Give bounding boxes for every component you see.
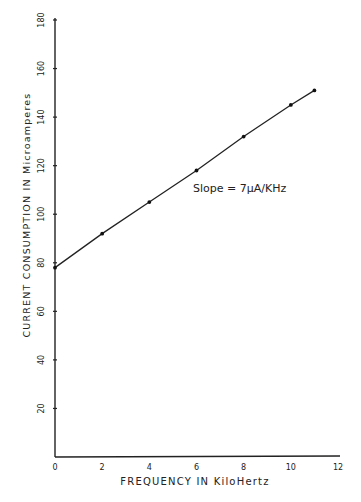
x-tick-label: 12: [333, 463, 343, 472]
line-chart: 20406080100120140160180 024681012 FREQUE…: [0, 0, 361, 502]
data-point: [313, 89, 317, 93]
x-tick-label: 0: [52, 463, 57, 472]
x-tick-label: 4: [147, 463, 152, 472]
data-point: [195, 169, 199, 173]
y-tick-label: 60: [37, 306, 46, 316]
x-axis-label: FREQUENCY IN KiloHertz: [120, 476, 269, 487]
data-point: [147, 200, 151, 204]
y-tick-label: 140: [37, 109, 46, 124]
y-tick-label: 120: [37, 158, 46, 173]
y-tick-label: 100: [37, 207, 46, 222]
data-point: [53, 266, 57, 270]
x-tick-label: 10: [286, 463, 296, 472]
data-point: [100, 232, 104, 236]
x-tick-label: 2: [100, 463, 105, 472]
data-point: [242, 135, 246, 139]
y-tick-label: 160: [37, 61, 46, 76]
x-tick-label: 8: [241, 463, 246, 472]
y-tick-label: 80: [37, 258, 46, 268]
x-tick-label: 6: [194, 463, 199, 472]
data-point: [289, 103, 293, 107]
x-axis: [55, 456, 340, 457]
data-series: [53, 89, 316, 270]
x-ticks: 024681012: [52, 463, 343, 472]
slope-annotation: Slope = 7µA/KHz: [193, 182, 286, 195]
y-tick-label: 40: [37, 355, 46, 365]
series-line: [55, 90, 314, 267]
y-tick-label: 20: [37, 403, 46, 413]
y-ticks: 20406080100120140160180: [37, 12, 57, 413]
y-tick-label: 180: [37, 12, 46, 27]
y-axis-label: CURRENT CONSUMPTION IN Microamperes: [21, 93, 32, 338]
